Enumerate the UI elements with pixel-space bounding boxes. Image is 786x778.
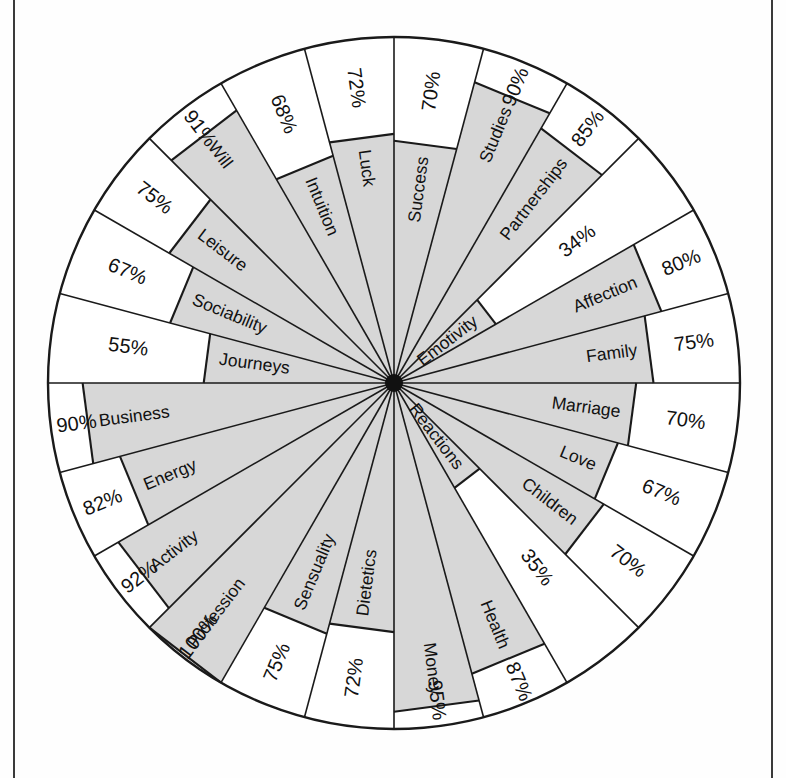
radar-wheel-svg: SuccessStudiesPartnershipsEmotivityAffec…	[0, 0, 786, 778]
page-canvas: SuccessStudiesPartnershipsEmotivityAffec…	[0, 0, 786, 778]
center-hub-group	[385, 374, 403, 392]
radar-wheel-chart: SuccessStudiesPartnershipsEmotivityAffec…	[0, 0, 786, 778]
center-hub	[385, 374, 403, 392]
